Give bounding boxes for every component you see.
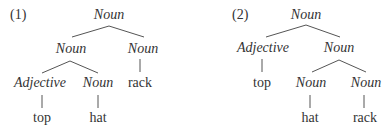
tree-1-edge-left-noun [70, 61, 98, 73]
tree-1-edge-left-adjective [42, 61, 70, 73]
tree-2-edge-right-right [339, 60, 366, 72]
tree-1-root-node: Noun [93, 7, 124, 22]
tree-2: (2) Noun Adjective Noun top Noun Noun ha… [232, 7, 381, 125]
tree-1-adjective-node: Adjective [13, 75, 66, 90]
tree-1-word-rack: rack [128, 75, 152, 90]
tree-1-word-top: top [33, 110, 51, 125]
tree-2-adjective-node: Adjective [236, 40, 289, 55]
tree-1: (1) Noun Noun Noun Adjective Noun rack t… [10, 7, 158, 125]
tree-1-edge-root-left [72, 26, 109, 37]
tree-2-edge-root-left [266, 25, 306, 37]
tree-2-word-rack: rack [353, 110, 377, 125]
tree-2-edge-right-left [312, 60, 339, 72]
tree-1-edge-root-right [109, 26, 144, 37]
tree-2-number: (2) [232, 7, 249, 23]
tree-1-number: (1) [10, 7, 27, 23]
tree-2-word-top: top [253, 75, 271, 90]
tree-2-edge-root-right [306, 25, 340, 37]
tree-2-right-node: Noun [323, 40, 354, 55]
tree-2-word-hat: hat [301, 110, 318, 125]
tree-1-word-hat: hat [89, 110, 106, 125]
tree-1-noun-node: Noun [82, 75, 113, 90]
diagram-svg: (1) Noun Noun Noun Adjective Noun rack t… [0, 0, 392, 135]
tree-2-noun-hat-node: Noun [295, 75, 326, 90]
tree-2-root-node: Noun [290, 7, 321, 22]
tree-1-right-node: Noun [127, 41, 158, 56]
parse-tree-diagram: (1) Noun Noun Noun Adjective Noun rack t… [0, 0, 392, 135]
tree-2-noun-rack-node: Noun [350, 75, 381, 90]
tree-1-left-node: Noun [55, 41, 86, 56]
